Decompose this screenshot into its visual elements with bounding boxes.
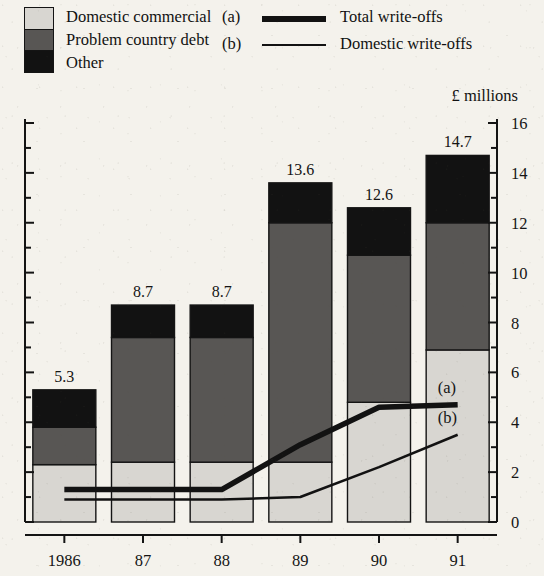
category-label: 89 — [292, 551, 309, 570]
chart-legend: Domestic commercial Problem country debt… — [0, 0, 544, 92]
bar-total-label: 5.3 — [54, 368, 74, 385]
legend-rule-total-write-offs — [262, 16, 326, 22]
category-label: 87 — [135, 551, 152, 570]
bar-segment — [269, 183, 332, 223]
line-a-end-label: (a) — [438, 378, 456, 397]
bar-total-label: 14.7 — [444, 133, 472, 150]
bar-segment — [190, 337, 253, 462]
bar-segment — [190, 305, 253, 337]
y-tick-label: 12 — [511, 214, 528, 233]
bar-total-label: 8.7 — [212, 283, 232, 300]
bar-segment — [348, 208, 411, 255]
legend-label-domestic-write-offs: Domestic write-offs — [340, 36, 472, 53]
legend-tag-total-write-offs: (a) — [222, 9, 240, 26]
legend-label-other: Other — [66, 55, 104, 72]
bar-total-label: 12.6 — [365, 186, 393, 203]
bar-segment — [348, 255, 411, 402]
y-tick-label: 10 — [511, 264, 528, 283]
bar-stack — [33, 390, 96, 522]
bar-stack — [269, 183, 332, 522]
bar-segment — [269, 462, 332, 522]
legend-stack-swatches — [24, 7, 54, 73]
bar-segment — [426, 223, 489, 350]
bar-segment — [33, 427, 96, 464]
legend-label-total-write-offs: Total write-offs — [340, 9, 443, 26]
legend-swatch-problem-country-debt — [25, 29, 53, 51]
y-tick-label: 16 — [511, 114, 528, 133]
line-b-end-label: (b) — [438, 408, 457, 427]
y-tick-label: 0 — [511, 513, 519, 532]
y-tick-label: 4 — [511, 413, 519, 432]
bar-segment — [112, 337, 175, 462]
bar-segment — [33, 390, 96, 427]
bar-total-label: 8.7 — [133, 283, 153, 300]
y-axis-unit-caption: £ millions — [452, 88, 518, 105]
legend-label-domestic-commercial: Domestic commercial — [66, 9, 211, 26]
bar-segment — [269, 223, 332, 462]
bar-segment — [112, 305, 175, 337]
y-tick-label: 8 — [511, 314, 519, 333]
category-label: 90 — [371, 551, 388, 570]
bar-segment — [426, 155, 489, 222]
y-tick-label: 2 — [511, 463, 519, 482]
y-tick-label: 14 — [511, 164, 528, 183]
legend-label-problem-country-debt: Problem country debt — [66, 32, 209, 49]
category-label: 91 — [449, 551, 466, 570]
legend-swatch-domestic-commercial — [25, 8, 53, 29]
y-tick-label: 6 — [511, 363, 519, 382]
category-label: 1986 — [48, 551, 81, 570]
bar-segment — [33, 465, 96, 522]
bar-stack — [426, 155, 489, 522]
legend-tag-domestic-write-offs: (b) — [222, 36, 241, 53]
legend-swatch-other — [25, 50, 53, 72]
category-labels-group: 19868788899091 — [48, 535, 466, 570]
category-label: 88 — [213, 551, 230, 570]
bar-total-label: 13.6 — [286, 161, 314, 178]
legend-rule-domestic-write-offs — [262, 44, 326, 46]
